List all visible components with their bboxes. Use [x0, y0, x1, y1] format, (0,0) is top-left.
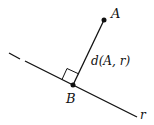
label-distance: d(A, r) — [91, 54, 130, 68]
label-a: A — [110, 6, 120, 21]
point-a — [102, 18, 107, 23]
label-b: B — [65, 91, 76, 106]
label-r: r — [140, 108, 147, 122]
point-b — [71, 83, 76, 88]
line-r-start — [9, 53, 20, 59]
segment-ab — [73, 20, 104, 85]
diagram-canvas: A B r d(A, r) — [0, 0, 154, 125]
